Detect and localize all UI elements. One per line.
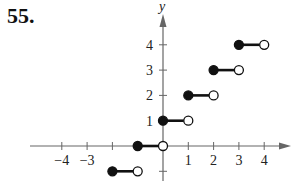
- open-endpoint-circle: [133, 167, 142, 176]
- closed-endpoint-dot: [184, 91, 193, 100]
- x-tick-label: 2: [210, 153, 217, 168]
- y-axis-label: y: [157, 0, 166, 14]
- x-tick-label: −4: [54, 153, 69, 168]
- closed-endpoint-dot: [159, 116, 168, 125]
- closed-endpoint-dot: [133, 142, 142, 151]
- x-tick-label: 1: [185, 153, 192, 168]
- x-tick-label: −3: [80, 153, 95, 168]
- closed-endpoint-dot: [209, 66, 218, 75]
- x-tick-label: 3: [235, 153, 242, 168]
- y-tick-label: 3: [146, 63, 153, 78]
- x-axis-arrow-icon: [279, 143, 291, 150]
- y-tick-label: 4: [146, 38, 153, 53]
- y-axis-arrow-icon: [160, 14, 167, 27]
- y-tick-label: 1: [146, 114, 153, 129]
- closed-endpoint-dot: [108, 167, 117, 176]
- open-endpoint-circle: [209, 91, 218, 100]
- step-function-chart: y−4−312341234: [0, 0, 294, 181]
- open-endpoint-circle: [184, 116, 193, 125]
- open-endpoint-circle: [234, 66, 243, 75]
- open-endpoint-circle: [159, 142, 168, 151]
- y-tick-label: 2: [146, 88, 153, 103]
- x-tick-label: 4: [261, 153, 268, 168]
- open-endpoint-circle: [260, 40, 269, 49]
- closed-endpoint-dot: [234, 40, 243, 49]
